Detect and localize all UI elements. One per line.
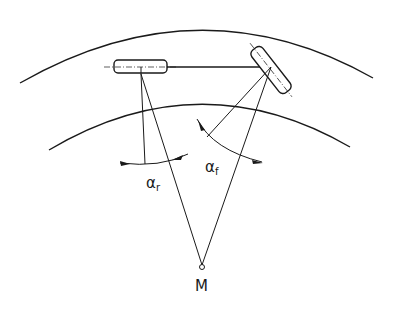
rear-wheel-perpendicular [141,74,145,164]
turn-center-point [200,265,205,270]
center-label: M [195,277,208,295]
front-wheel-perpendicular [207,67,271,137]
front-wheel [245,39,298,101]
alpha-f-label: αf [205,158,219,177]
front-arrow-up-icon [198,120,205,131]
rear-to-center-line [141,74,202,265]
rear-wheel [104,60,178,74]
inner-road-edge [49,104,350,150]
outer-road-edge [20,30,373,83]
front-slip-angle-arc [197,119,262,162]
slip-angle-diagram: αr αf M [0,0,393,309]
alpha-r-label: αr [146,174,161,193]
